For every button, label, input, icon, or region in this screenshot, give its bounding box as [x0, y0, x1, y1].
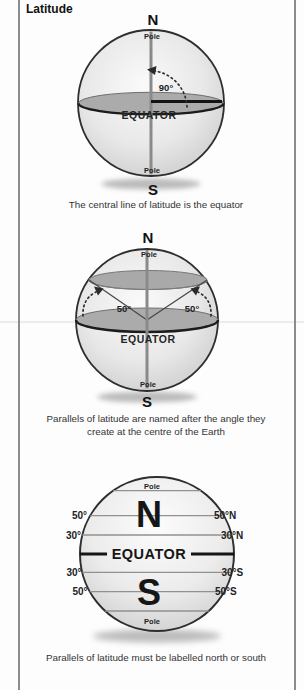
north-pole-label: Pole	[141, 250, 157, 259]
lat-left-30n-label: 30°	[66, 530, 81, 541]
diagram2-caption-line1: Parallels of latitude are named after th…	[18, 412, 294, 425]
south-hemisphere-label: S	[137, 572, 161, 613]
left-border-rule	[18, 0, 20, 690]
south-label: S	[142, 393, 152, 410]
lat-right-30n-label: 30°N	[221, 530, 243, 541]
lat-right-50s-label: 50°S	[215, 586, 237, 597]
south-pole-label: Pole	[144, 166, 160, 175]
south-pole-label: Pole	[140, 380, 156, 389]
labelled-parallels-diagram: Pole Pole N S EQUATOR 50° 30° 30° 50° 50…	[57, 470, 257, 650]
north-pole-label: Pole	[144, 482, 160, 491]
angle-50-left-label: 50°	[117, 303, 132, 314]
parallel-angle-diagram: 50° 50° EQUATOR Pole Pole N S	[58, 226, 248, 414]
diagram1-caption: The central line of latitude is the equa…	[18, 198, 294, 211]
diagram2-caption-line2: create at the centre of the Earth	[18, 425, 294, 438]
south-pole-label: Pole	[144, 617, 160, 626]
north-pole-label: Pole	[144, 32, 160, 41]
equator-label: EQUATOR	[120, 333, 175, 345]
equator-definition-diagram: 90° EQUATOR Pole Pole N S	[58, 8, 248, 208]
equator-label: EQUATOR	[112, 546, 187, 562]
north-label: N	[148, 11, 159, 28]
lat-left-50n-label: 50°	[72, 510, 87, 521]
page-frame: Latitude 90° EQUATOR Pole Pole N S The c…	[0, 0, 304, 690]
equator-label: EQUATOR	[121, 109, 176, 121]
south-label: S	[148, 181, 158, 198]
lat-right-30s-label: 30°S	[222, 567, 244, 578]
angle-50-right-label: 50°	[185, 303, 200, 314]
diagram3-caption: Parallels of latitude must be labelled n…	[18, 651, 294, 664]
north-hemisphere-label: N	[136, 494, 162, 535]
angle-90-label: 90°	[159, 82, 174, 93]
lat-left-30s-label: 30°	[66, 567, 81, 578]
north-label: N	[143, 229, 154, 246]
lat-left-50s-label: 50°	[72, 586, 87, 597]
diagram2-caption: Parallels of latitude are named after th…	[18, 412, 294, 438]
lat-right-50n-label: 50°N	[214, 510, 236, 521]
right-border-rule	[294, 0, 296, 690]
